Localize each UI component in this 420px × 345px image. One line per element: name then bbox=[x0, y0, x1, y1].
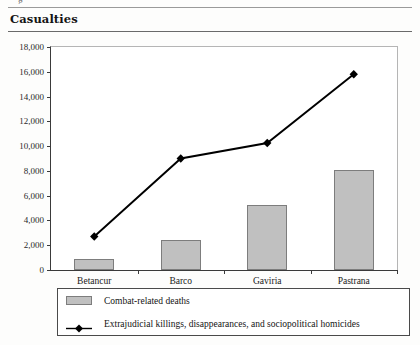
legend-item-line: Extrajudicial killings, disappearances, … bbox=[58, 312, 409, 335]
header-rule-top bbox=[8, 7, 412, 8]
y-axis-tick-label: 12,000 bbox=[19, 116, 51, 126]
line-diamond-icon bbox=[66, 319, 92, 328]
bar-gaviria bbox=[247, 205, 287, 270]
y-axis-tick-label: 2,000 bbox=[24, 240, 51, 250]
header-rule-bottom bbox=[8, 31, 412, 32]
y-axis-tick-label: 14,000 bbox=[19, 92, 51, 102]
x-axis-label-betancur: Betancur bbox=[77, 276, 111, 286]
x-axis-tick bbox=[138, 270, 139, 274]
bar-barco bbox=[161, 240, 201, 270]
x-axis-tick bbox=[224, 270, 225, 274]
legend-item-bar: Combat-related deaths bbox=[58, 289, 409, 312]
bar-swatch-icon bbox=[66, 296, 92, 305]
figure-page: g Casualties 18,00016,00014,00012,00010,… bbox=[0, 0, 420, 345]
legend-label-bar: Combat-related deaths bbox=[104, 296, 190, 306]
page-title: Casualties bbox=[10, 12, 78, 26]
casualties-chart: 18,00016,00014,00012,00010,0008,0006,000… bbox=[0, 36, 420, 276]
x-axis-tick bbox=[311, 270, 312, 274]
y-axis-tick-label: 18,000 bbox=[19, 42, 51, 52]
bar-pastrana bbox=[334, 170, 374, 270]
y-axis-tick-label: 4,000 bbox=[24, 215, 51, 225]
plot-area: 18,00016,00014,00012,00010,0008,0006,000… bbox=[50, 46, 398, 271]
line-series-path bbox=[94, 74, 354, 236]
y-axis-tick-label: 8,000 bbox=[24, 166, 51, 176]
x-axis-label-pastrana: Pastrana bbox=[338, 276, 370, 286]
bar-betancur bbox=[74, 259, 114, 270]
y-axis-tick-label: 0 bbox=[40, 265, 52, 275]
chart-legend: Combat-related deaths Extrajudicial kill… bbox=[57, 288, 410, 336]
x-axis-label-barco: Barco bbox=[169, 276, 192, 286]
y-axis-tick-label: 10,000 bbox=[19, 141, 51, 151]
clipped-text-above: g bbox=[18, 0, 24, 4]
legend-label-line: Extrajudicial killings, disappearances, … bbox=[104, 319, 360, 329]
y-axis-tick-label: 6,000 bbox=[24, 191, 51, 201]
y-axis-tick-label: 16,000 bbox=[19, 67, 51, 77]
x-axis-tick bbox=[397, 270, 398, 274]
x-axis-label-gaviria: Gaviria bbox=[253, 276, 282, 286]
